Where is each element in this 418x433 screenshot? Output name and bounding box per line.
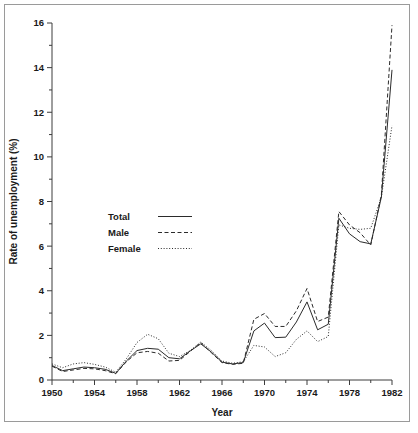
legend-label-total: Total: [108, 211, 130, 222]
x-tick-label: 1978: [339, 387, 360, 398]
x-axis-title: Year: [211, 407, 232, 418]
x-tick-label: 1950: [41, 387, 62, 398]
series-line-male: [52, 25, 392, 374]
y-tick-label: 14: [33, 62, 44, 73]
x-tick-label: 1970: [254, 387, 275, 398]
y-tick-label: 8: [39, 196, 44, 207]
y-axis-title: Rate of unemployment (%): [8, 138, 19, 264]
legend-label-male: Male: [108, 227, 129, 238]
y-tick-label: 6: [39, 241, 44, 252]
legend-label-female: Female: [108, 243, 141, 254]
series-line-total: [52, 70, 392, 373]
y-tick-label: 0: [39, 374, 44, 385]
series-line-female: [52, 126, 392, 373]
y-tick-label: 4: [39, 285, 45, 296]
y-tick-label: 10: [33, 151, 44, 162]
y-tick-label: 12: [33, 107, 44, 118]
x-tick-label: 1962: [169, 387, 190, 398]
unemployment-line-chart: 0246810121416195019541958196219661970197…: [0, 0, 418, 433]
y-tick-label: 2: [39, 330, 44, 341]
x-tick-label: 1958: [126, 387, 147, 398]
x-tick-label: 1954: [84, 387, 106, 398]
x-tick-label: 1966: [211, 387, 232, 398]
plot-canvas: 0246810121416195019541958196219661970197…: [0, 0, 418, 433]
y-tick-label: 16: [33, 17, 44, 28]
x-tick-label: 1982: [381, 387, 402, 398]
x-tick-label: 1974: [296, 387, 318, 398]
